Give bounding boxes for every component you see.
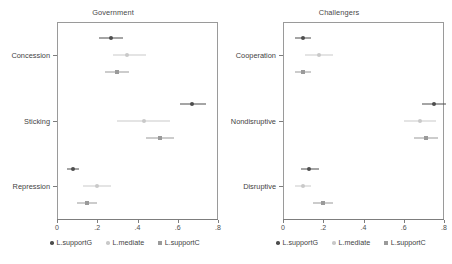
estimate-point-marker xyxy=(71,167,75,171)
legend-item-label: L.supportG xyxy=(57,239,93,246)
y-axis-tick xyxy=(53,186,57,187)
estimate-point-marker xyxy=(109,36,113,40)
estimate-point-marker xyxy=(301,70,305,74)
y-axis-category-label: Disruptive xyxy=(243,182,276,191)
y-axis-tick xyxy=(279,186,283,187)
estimate-point-marker xyxy=(158,136,162,140)
x-axis-tick-label: .4 xyxy=(361,224,367,231)
x-axis-tick-label: .2 xyxy=(320,224,326,231)
legend-item-label: L.mediate xyxy=(339,239,371,246)
estimate-point-marker xyxy=(301,36,305,40)
estimate-point-marker xyxy=(317,53,321,57)
x-axis-tick-label: .2 xyxy=(94,224,100,231)
estimate-point-marker xyxy=(432,102,436,106)
y-axis-category-label: Cooperation xyxy=(236,50,276,59)
legend-marker-icon xyxy=(106,241,110,245)
x-axis-tick-label: .6 xyxy=(401,224,407,231)
x-axis-tick xyxy=(57,220,58,223)
x-axis-tick-label: .4 xyxy=(135,224,141,231)
legend-item[interactable]: L.supportC xyxy=(158,239,200,246)
estimate-point-marker xyxy=(142,119,146,123)
y-axis-tick xyxy=(279,121,283,122)
y-axis-category-label: Sticking xyxy=(24,116,50,125)
x-axis-tick-label: 0 xyxy=(281,224,285,231)
x-axis-tick xyxy=(364,220,365,223)
estimate-point-marker xyxy=(301,184,305,188)
legend-group-left: L.supportGL.mediateL.supportC xyxy=(50,239,200,246)
panel-title-challengers: Challengers xyxy=(226,8,452,17)
legend-marker-icon xyxy=(332,241,336,245)
x-axis-tick-label: .8 xyxy=(441,224,447,231)
estimate-point-marker xyxy=(418,119,422,123)
estimate-point-marker xyxy=(85,201,89,205)
panel-challengers: Challengers 0.2.4.6.8CooperationNondisru… xyxy=(226,0,452,240)
x-axis-tick xyxy=(138,220,139,223)
y-axis-tick xyxy=(53,121,57,122)
legend-marker-icon xyxy=(158,241,162,245)
legend-item-label: L.supportG xyxy=(283,239,319,246)
y-axis-tick xyxy=(53,55,57,56)
figure-canvas: Government 0.2.4.6.8ConcessionStickingRe… xyxy=(0,0,452,264)
y-axis-category-label: Concession xyxy=(11,50,50,59)
estimate-point-marker xyxy=(95,184,99,188)
estimate-point-marker xyxy=(190,102,194,106)
x-axis-tick xyxy=(323,220,324,223)
legend-marker-icon xyxy=(50,241,54,245)
confidence-interval-line xyxy=(113,54,145,55)
x-axis-tick-label: .8 xyxy=(215,224,221,231)
legend-item[interactable]: L.mediate xyxy=(106,239,144,246)
estimate-point-marker xyxy=(115,70,119,74)
legend-item-label: L.supportC xyxy=(165,239,200,246)
legend-marker-icon xyxy=(276,241,280,245)
estimate-point-marker xyxy=(307,167,311,171)
y-axis-category-label: Nondisruptive xyxy=(231,116,276,125)
legend-item-label: L.mediate xyxy=(113,239,145,246)
x-axis-tick xyxy=(178,220,179,223)
legend-group-right: L.supportGL.mediateL.supportC xyxy=(276,239,426,246)
x-axis-tick xyxy=(218,220,219,223)
panel-government: Government 0.2.4.6.8ConcessionStickingRe… xyxy=(0,0,226,240)
x-axis-tick xyxy=(404,220,405,223)
y-axis-category-label: Repression xyxy=(13,182,50,191)
legend-item[interactable]: L.mediate xyxy=(332,239,370,246)
x-axis-tick-label: 0 xyxy=(55,224,59,231)
legend-item[interactable]: L.supportC xyxy=(384,239,426,246)
estimate-point-marker xyxy=(125,53,129,57)
x-axis-tick xyxy=(283,220,284,223)
legend-item[interactable]: L.supportG xyxy=(276,239,318,246)
legend-marker-icon xyxy=(384,241,388,245)
estimate-point-marker xyxy=(321,201,325,205)
legend-item[interactable]: L.supportG xyxy=(50,239,92,246)
panel-title-government: Government xyxy=(0,8,226,17)
y-axis-tick xyxy=(279,55,283,56)
x-axis-tick xyxy=(444,220,445,223)
legend-item-label: L.supportC xyxy=(391,239,426,246)
estimate-point-marker xyxy=(424,136,428,140)
x-axis-tick-label: .6 xyxy=(175,224,181,231)
x-axis-tick xyxy=(97,220,98,223)
